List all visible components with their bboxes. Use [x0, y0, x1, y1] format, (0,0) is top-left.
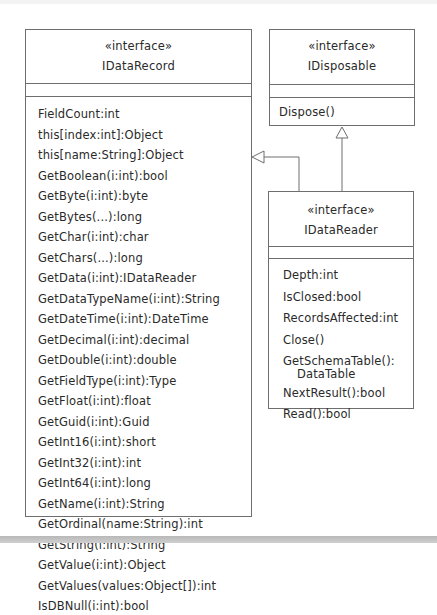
- member: GetValue(i:int):Object: [38, 555, 251, 576]
- member: IsDBNull(i:int):bool: [38, 596, 251, 615]
- member: GetValues(values:Object[]):int: [38, 576, 251, 597]
- hollow-triangle-arrowhead-icon: [252, 151, 264, 163]
- hollow-triangle-arrowhead-icon: [336, 127, 348, 138]
- generalization-to-idisposable[interactable]: [336, 127, 348, 191]
- connector-line: [264, 157, 299, 191]
- generalization-to-idatarecord[interactable]: [252, 151, 299, 191]
- bottom-rule: [0, 536, 437, 543]
